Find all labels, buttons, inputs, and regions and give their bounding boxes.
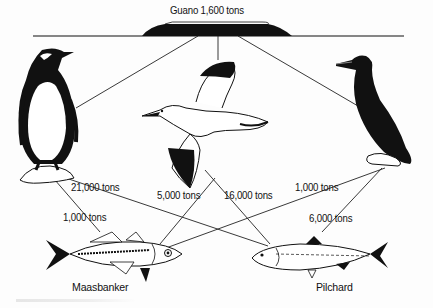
flow-label-penguin-maasbanker: 1,000 tons — [63, 211, 106, 223]
gannet-icon — [142, 62, 268, 188]
flow-label-cormorant-maasbanker: 1,000 tons — [295, 181, 338, 193]
maasbanker-fish-icon — [46, 232, 182, 282]
diagram-artwork — [0, 0, 433, 308]
faded-caption — [16, 299, 136, 302]
pilchard-label: Pilchard — [316, 281, 353, 293]
guano-mound-icon — [142, 24, 292, 36]
penguin-icon — [19, 48, 77, 183]
flow-label-penguin-pilchard: 21,000 tons — [71, 181, 119, 193]
flow-label-gannet-maasbanker: 5,000 tons — [157, 189, 200, 201]
cormorant-icon — [336, 56, 411, 167]
food-web-diagram: Guano 1,600 tons 21,000 tons 1,000 tons … — [0, 0, 433, 308]
flow-label-gannet-pilchard: 16,000 tons — [224, 189, 272, 201]
guano-label: Guano 1,600 tons — [170, 4, 244, 16]
maasbanker-label: Maasbanker — [72, 281, 128, 293]
flow-links — [48, 168, 385, 248]
flow-label-cormorant-pilchard: 6,000 tons — [309, 212, 352, 224]
pilchard-fish-icon — [252, 236, 388, 278]
